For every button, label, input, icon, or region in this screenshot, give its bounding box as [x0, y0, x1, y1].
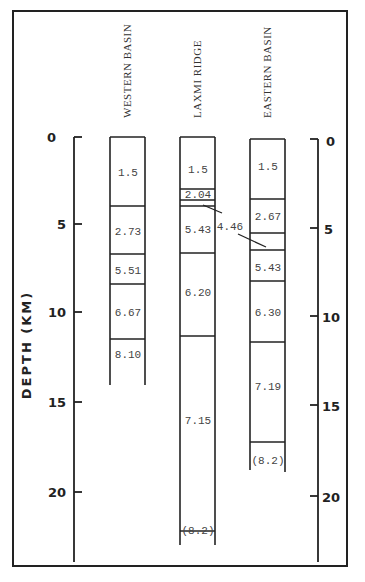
- header-eastern-basin: EASTERN BASIN: [261, 26, 273, 118]
- right-tick-15: 15: [322, 399, 340, 414]
- laxmi-layer-1: 1.5: [188, 164, 208, 176]
- western-layer-4: 6.67: [115, 307, 141, 319]
- right-tick-5: 5: [324, 222, 333, 237]
- left-tick-0: 0: [47, 130, 56, 145]
- laxmi-layer-4: 6.20: [185, 287, 211, 299]
- left-tick-10: 10: [48, 305, 66, 320]
- depth-axis-title: DEPTH (KM): [19, 291, 34, 399]
- laxmi-layer-6: (8.2): [181, 525, 214, 537]
- header-western-basin: WESTERN BASIN: [121, 24, 133, 118]
- eastern-layer-5: 7.19: [255, 381, 281, 393]
- eastern-layer-3: 5.43: [255, 262, 281, 274]
- header-laxmi-ridge: LAXMI RIDGE: [191, 40, 203, 118]
- left-depth-axis: [74, 137, 82, 562]
- left-tick-15: 15: [48, 395, 66, 410]
- western-layer-5: 8.10: [115, 349, 141, 361]
- left-tick-20: 20: [48, 485, 66, 500]
- western-layer-1: 1.5: [118, 167, 138, 179]
- laxmi-layer-3: 5.43: [185, 224, 211, 236]
- right-tick-0: 0: [326, 134, 335, 149]
- annotation-4-46: 4.46: [217, 221, 243, 233]
- western-layer-3: 5.51: [115, 265, 142, 277]
- velocity-structure-diagram: 0 5 10 15 20 DEPTH (KM) 0 5 10 15 20 WES…: [0, 0, 365, 582]
- eastern-layer-1: 1.5: [258, 161, 278, 173]
- eastern-layer-4: 6.30: [255, 307, 281, 319]
- western-layer-2: 2.73: [115, 226, 141, 238]
- eastern-layer-6: (8.2): [251, 455, 284, 467]
- laxmi-layer-2: 2.04: [185, 189, 212, 201]
- laxmi-layer-5: 7.15: [185, 415, 211, 427]
- right-tick-20: 20: [322, 490, 340, 505]
- eastern-layer-2: 2.67: [255, 211, 281, 223]
- left-tick-5: 5: [57, 217, 66, 232]
- right-depth-axis: [310, 139, 318, 562]
- right-tick-10: 10: [322, 310, 340, 325]
- eastern-basin-column: [250, 139, 285, 472]
